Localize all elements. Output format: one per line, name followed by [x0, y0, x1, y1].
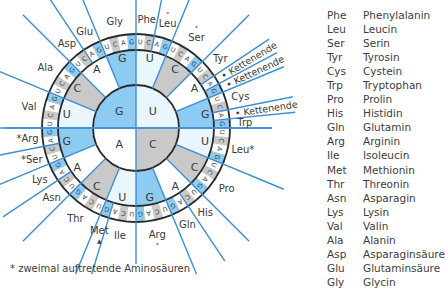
legend-full-name: Asparaginsäure — [363, 247, 445, 261]
legend-row: LeuLeucin — [327, 22, 445, 36]
legend-abbreviation: Val — [327, 219, 363, 233]
legend-full-name: Alanin — [363, 233, 396, 247]
amino-acid-label: Ile — [114, 230, 126, 241]
middle-base-label: A — [171, 180, 179, 193]
inner-base-label: A — [116, 138, 124, 151]
legend-row: AsnAsparagin — [327, 191, 445, 205]
legend-abbreviation: Met — [327, 163, 363, 177]
amino-acid-label: Glu — [76, 26, 93, 37]
legend-abbreviation: Cys — [327, 64, 363, 78]
outer-base-label: G — [218, 121, 226, 126]
legend-full-name: Isoleucin — [363, 148, 409, 162]
legend-abbreviation: Leu — [327, 22, 363, 36]
amino-acid-label: *Arg — [16, 133, 38, 144]
legend-row: ArgArginin — [327, 134, 445, 148]
legend-row: ThrThreonin — [327, 177, 445, 191]
legend-abbreviation: Asp — [327, 247, 363, 261]
middle-base-label: G — [201, 108, 210, 121]
amino-acid-label: Val — [22, 101, 37, 112]
legend-full-name: Glutamin — [363, 120, 411, 134]
inner-base-label: G — [115, 105, 124, 118]
legend-abbreviation: Phe — [327, 8, 363, 22]
amino-acid-mark: * — [166, 10, 169, 17]
legend-abbreviation: Thr — [327, 177, 363, 191]
legend-abbreviation: His — [327, 106, 363, 120]
legend-full-name: Threonin — [363, 177, 409, 191]
outer-base-label: G — [46, 130, 54, 135]
middle-base-label: G — [145, 191, 154, 204]
amino-acid-label: Gly — [107, 16, 124, 27]
amino-acid-label: Ala — [37, 62, 53, 73]
outer-base-label: U — [218, 130, 226, 135]
legend-full-name: Histidin — [363, 106, 403, 120]
outer-base-label: G — [129, 38, 134, 46]
legend-full-name: Arginin — [363, 134, 400, 148]
amino-acid-label: Gln — [179, 219, 196, 230]
legend-abbreviation: Pro — [327, 92, 363, 106]
amino-acid-label: Phe — [137, 14, 156, 25]
middle-base-label: U — [63, 108, 71, 121]
legend-abbreviation: Lys — [327, 205, 363, 219]
legend-row: LysLysin — [327, 205, 445, 219]
legend-row: AlaAlanin — [327, 233, 445, 247]
legend-row: PhePhenylalanin — [327, 8, 445, 22]
outer-base-label: U — [129, 210, 134, 218]
amino-acid-label: Leu — [159, 18, 177, 29]
legend-full-name: Glutaminsäure — [363, 261, 440, 275]
outer-base-label: U — [46, 121, 54, 126]
middle-base-label: G — [63, 135, 72, 148]
legend-abbreviation: Glu — [327, 261, 363, 275]
middle-base-label: C — [93, 180, 101, 193]
amino-acid-label: *Ser — [21, 154, 44, 165]
middle-base-label: C — [74, 82, 82, 95]
inner-base-label: C — [149, 138, 157, 151]
middle-base-label: U — [118, 191, 126, 204]
legend-abbreviation: Ile — [327, 148, 363, 162]
legend-row: SerSerin — [327, 36, 445, 50]
legend-full-name: Valin — [363, 219, 388, 233]
middle-base-label: G — [118, 52, 127, 65]
middle-base-label: A — [191, 82, 199, 95]
amino-acid-label: Asp — [58, 38, 76, 49]
legend-row: GluGlutaminsäure — [327, 261, 445, 275]
legend-abbreviation: Gly — [327, 275, 363, 289]
legend-abbreviation: Asn — [327, 191, 363, 205]
legend-full-name: Leucin — [363, 22, 397, 36]
amino-acid-label: Arg — [149, 229, 166, 240]
legend-full-name: Glycin — [363, 275, 396, 289]
legend-row: GlyGlycin — [327, 275, 445, 289]
amino-acid-label: Pro — [219, 183, 235, 194]
middle-base-label: U — [146, 52, 154, 65]
outer-base-label: G — [138, 210, 143, 218]
inner-base-label: U — [149, 105, 157, 118]
middle-base-label: A — [93, 63, 101, 76]
legend-full-name: Serin — [363, 36, 390, 50]
amino-acid-label: Tyr — [212, 53, 228, 64]
amino-acid-label: Thr — [66, 213, 84, 224]
legend-row: CysCystein — [327, 64, 445, 78]
amino-acid-label: Met — [90, 225, 109, 236]
legend-row: AspAsparaginsäure — [327, 247, 445, 261]
middle-base-label: C — [191, 161, 199, 174]
legend-row: MetMethionin — [327, 163, 445, 177]
legend-abbreviation: Gln — [327, 120, 363, 134]
legend-row: GlnGlutamin — [327, 120, 445, 134]
amino-acid-legend: PhePhenylalaninLeuLeucinSerSerinTyrTyros… — [327, 8, 445, 289]
legend-row: IleIsoleucin — [327, 148, 445, 162]
amino-acid-mark: * — [195, 24, 198, 31]
amino-acid-label: Ser — [188, 32, 206, 43]
legend-row: ValValin — [327, 219, 445, 233]
legend-full-name: Phenylalanin — [363, 8, 430, 22]
legend-full-name: Tyrosin — [363, 50, 400, 64]
amino-acid-label: His — [197, 207, 213, 218]
amino-acid-label: Trp — [236, 117, 252, 128]
middle-base-label: A — [74, 161, 82, 174]
legend-full-name: Tryptophan — [363, 78, 422, 92]
amino-acid-label: Leu* — [231, 144, 254, 155]
legend-abbreviation: Ala — [327, 233, 363, 247]
middle-base-label: U — [201, 135, 209, 148]
amino-acid-label: Cys — [231, 91, 249, 102]
legend-abbreviation: Trp — [327, 78, 363, 92]
legend-row: HisHistidin — [327, 106, 445, 120]
legend-abbreviation: Arg — [327, 134, 363, 148]
